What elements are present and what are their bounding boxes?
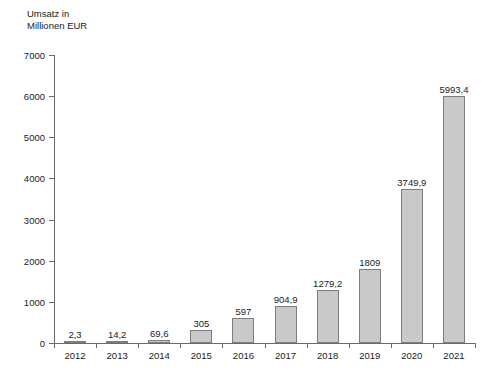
x-axis-tick <box>222 343 223 348</box>
y-axis-tick-label: 0 <box>40 338 45 349</box>
x-axis-tick <box>265 343 266 348</box>
x-axis-tick <box>307 343 308 348</box>
x-axis-category-label: 2021 <box>443 350 464 361</box>
x-axis-tick <box>96 343 97 348</box>
x-axis-category-label: 2016 <box>233 350 254 361</box>
x-axis-category-label: 2017 <box>275 350 296 361</box>
y-axis-tick-label: 4000 <box>24 173 45 184</box>
y-axis-tick <box>49 261 54 262</box>
bar[interactable]: 1279,2 <box>317 290 339 343</box>
x-axis-tick <box>54 343 55 348</box>
y-axis-tick <box>49 137 54 138</box>
x-axis-tick <box>180 343 181 348</box>
bar[interactable]: 1809 <box>359 269 381 343</box>
y-axis-tick-label: 5000 <box>24 132 45 143</box>
x-axis-category-label: 2018 <box>317 350 338 361</box>
bar-slot: 69,6 <box>148 55 170 343</box>
y-axis-tick <box>49 302 54 303</box>
bar[interactable]: 3749,9 <box>401 189 423 343</box>
bar-value-label: 5993,4 <box>439 84 468 95</box>
x-axis-category-label: 2014 <box>149 350 170 361</box>
y-axis-tick-label: 2000 <box>24 255 45 266</box>
x-axis-category-label: 2020 <box>401 350 422 361</box>
bar-slot: 597 <box>232 55 254 343</box>
x-axis-category-label: 2019 <box>359 350 380 361</box>
bar-slot: 5993,4 <box>443 55 465 343</box>
bar-slot: 1279,2 <box>317 55 339 343</box>
y-axis-tick <box>49 96 54 97</box>
bar[interactable]: 597 <box>232 318 254 343</box>
bar-chart: Umsatz in Millionen EUR 0100020003000400… <box>0 0 486 370</box>
bar-value-label: 597 <box>236 306 252 317</box>
bar-value-label: 2,3 <box>68 329 81 340</box>
bar-slot: 1809 <box>359 55 381 343</box>
y-axis-tick-label: 1000 <box>24 296 45 307</box>
bar-slot: 2,3 <box>64 55 86 343</box>
x-axis-category-label: 2015 <box>191 350 212 361</box>
x-axis-tick <box>391 343 392 348</box>
bar[interactable]: 904,9 <box>275 306 297 343</box>
y-axis-tick-label: 6000 <box>24 91 45 102</box>
bar-slot: 3749,9 <box>401 55 423 343</box>
plot-area: 010002000300040005000600070002,314,269,6… <box>54 55 475 343</box>
y-axis-tick <box>49 55 54 56</box>
bar-value-label: 305 <box>193 318 209 329</box>
y-axis-tick <box>49 178 54 179</box>
y-axis-title: Umsatz in Millionen EUR <box>27 8 87 32</box>
bar-slot: 14,2 <box>106 55 128 343</box>
x-axis-tick <box>433 343 434 348</box>
bar-value-label: 69,6 <box>150 328 169 339</box>
bar-value-label: 14,2 <box>108 329 127 340</box>
y-axis-tick <box>49 220 54 221</box>
y-axis-tick-label: 7000 <box>24 50 45 61</box>
y-axis-title-line2: Millionen EUR <box>27 20 87 32</box>
bar[interactable]: 14,2 <box>106 341 128 343</box>
bar[interactable]: 5993,4 <box>443 96 465 343</box>
bar[interactable]: 2,3 <box>64 341 86 343</box>
x-axis-tick <box>475 343 476 348</box>
bar-slot: 305 <box>190 55 212 343</box>
x-axis-category-label: 2012 <box>64 350 85 361</box>
x-axis-tick <box>349 343 350 348</box>
bar-slot: 904,9 <box>275 55 297 343</box>
y-axis-tick-label: 3000 <box>24 214 45 225</box>
bar-value-label: 1809 <box>359 257 380 268</box>
bar-value-label: 3749,9 <box>397 177 426 188</box>
bar[interactable]: 69,6 <box>148 340 170 343</box>
y-axis-title-line1: Umsatz in <box>27 8 87 20</box>
bar[interactable]: 305 <box>190 330 212 343</box>
x-axis-category-label: 2013 <box>107 350 128 361</box>
bar-value-label: 904,9 <box>274 294 298 305</box>
x-axis-tick <box>138 343 139 348</box>
bar-value-label: 1279,2 <box>313 278 342 289</box>
